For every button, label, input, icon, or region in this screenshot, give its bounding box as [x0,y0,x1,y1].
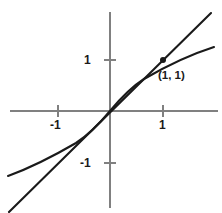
y-axis-tick-label-negative-one: -1 [80,157,91,169]
y-axis-tick-label-positive-one: 1 [84,54,91,66]
x-axis-tick-label-positive-one: 1 [159,119,166,131]
math-plot-figure: 1 -1 -1 1 (1, 1) [0,0,222,213]
intersection-point-label: (1, 1) [158,70,185,82]
plot-canvas [0,0,222,213]
x-axis-tick-label-negative-one: -1 [50,119,61,131]
intersection-point-marker [160,57,166,63]
